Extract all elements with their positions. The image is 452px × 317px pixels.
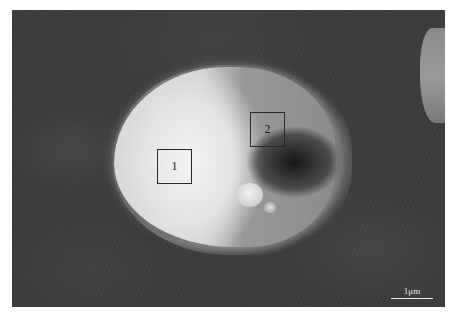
region-label-1: 1	[172, 159, 178, 174]
micrograph-frame: 1 2 1μm	[12, 10, 445, 307]
scale-bar-line	[391, 298, 433, 300]
particle-inclusion	[237, 183, 263, 207]
region-box-1: 1	[157, 149, 192, 184]
scale-bar-label: 1μm	[391, 287, 433, 296]
particle-inclusion-small	[264, 202, 276, 213]
region-label-2: 2	[265, 122, 271, 137]
particle	[114, 67, 336, 247]
scale-bar: 1μm	[391, 287, 433, 300]
region-box-2: 2	[250, 112, 285, 147]
adjacent-particle-fragment	[420, 28, 445, 123]
